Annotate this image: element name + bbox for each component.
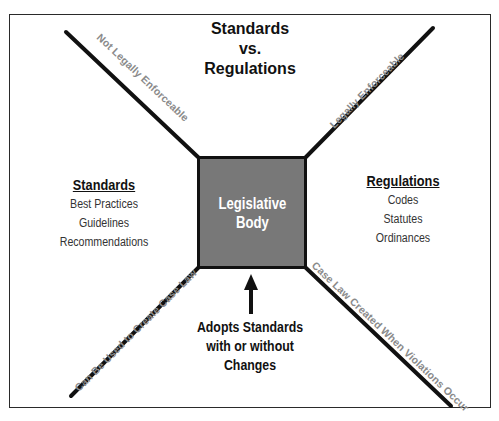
regulations-heading: Regulations xyxy=(339,171,467,191)
adopts-line-2: with or without xyxy=(186,337,314,356)
adopts-line-1: Adopts Standards xyxy=(186,318,314,337)
standards-item: Recommendations xyxy=(40,233,168,252)
regulations-item: Statutes xyxy=(339,210,467,229)
regulations-list: Regulations Codes Statutes Ordinances xyxy=(328,171,478,248)
standards-item: Best Practices xyxy=(40,195,168,214)
regulations-item: Ordinances xyxy=(339,229,467,248)
standards-item: Guidelines xyxy=(40,214,168,233)
diagram-title: Standards vs. Regulations xyxy=(170,19,330,79)
line-bottom-right xyxy=(305,267,451,406)
legislative-body-label: Legislative Body xyxy=(218,194,286,232)
title-line-3: Regulations xyxy=(170,59,330,79)
up-arrow-icon xyxy=(244,274,258,314)
title-line-2: vs. xyxy=(170,39,330,59)
standards-list: Standards Best Practices Guidelines Reco… xyxy=(29,175,179,252)
adopts-standards-note: Adopts Standards with or without Changes xyxy=(175,318,325,375)
adopts-line-3: Changes xyxy=(186,356,314,375)
regulations-item: Codes xyxy=(339,191,467,210)
standards-heading: Standards xyxy=(40,175,168,195)
legislative-body-box: Legislative Body xyxy=(197,156,307,269)
title-line-1: Standards xyxy=(170,19,330,39)
